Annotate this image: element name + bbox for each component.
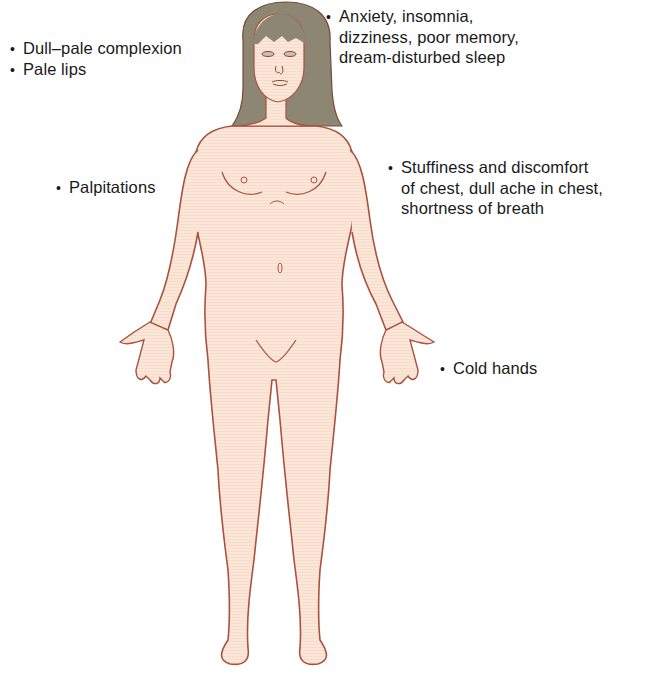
- torso: [193, 126, 355, 664]
- body-figure: [0, 0, 669, 680]
- label-text: Pale lips: [23, 60, 86, 78]
- label-text: Stuffiness and discomfort: [401, 158, 588, 176]
- label-heart-symptoms: •Palpitations: [56, 177, 156, 198]
- label-hand-symptoms: •Cold hands: [440, 358, 537, 379]
- label-text: dream-disturbed sleep: [326, 47, 519, 67]
- label-chest-symptoms: •Stuffiness and discomfort of chest, dul…: [388, 157, 603, 218]
- left-hand: [120, 322, 174, 384]
- right-eye: [284, 52, 296, 57]
- left-eye: [262, 52, 274, 57]
- label-text: dizziness, poor memory,: [326, 27, 519, 47]
- right-hand: [380, 322, 434, 384]
- left-arm: [150, 150, 198, 330]
- label-text: shortness of breath: [388, 198, 603, 218]
- label-head-symptoms: •Anxiety, insomnia, dizziness, poor memo…: [326, 6, 519, 67]
- label-text: Palpitations: [69, 178, 156, 196]
- label-text: Dull–pale complexion: [23, 39, 182, 57]
- label-text: of chest, dull ache in chest,: [388, 178, 603, 198]
- label-face-symptoms: •Dull–pale complexion •Pale lips: [10, 38, 182, 80]
- label-text: Anxiety, insomnia,: [339, 7, 473, 25]
- label-text: Cold hands: [453, 359, 537, 377]
